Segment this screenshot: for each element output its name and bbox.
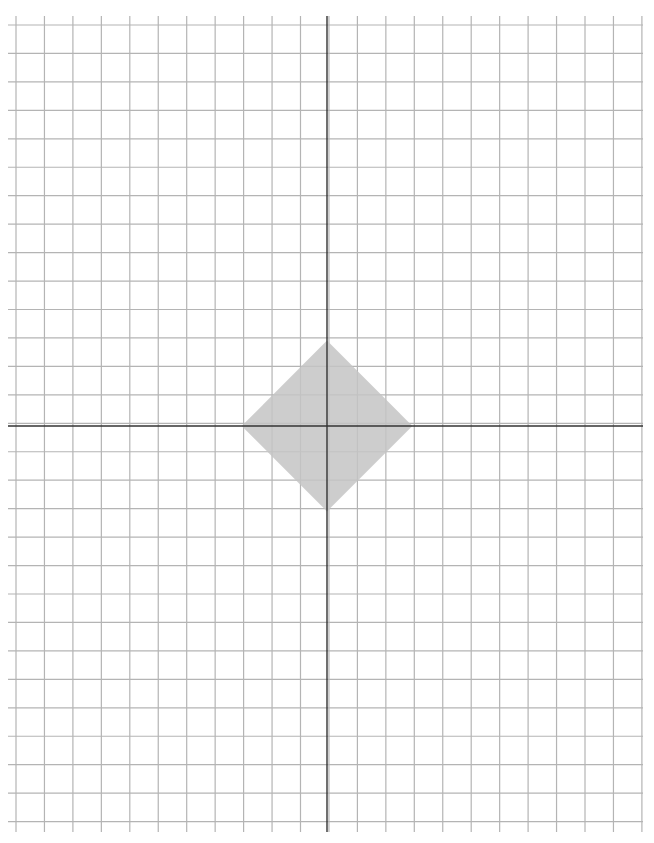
coordinate-grid	[0, 0, 654, 843]
